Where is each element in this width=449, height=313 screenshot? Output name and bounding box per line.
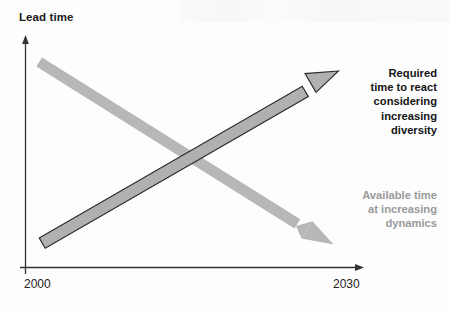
x-axis-tick-label-end: 2030 xyxy=(333,277,360,291)
required-time-arrowhead-icon xyxy=(305,71,339,92)
required-time-arrow-shaft xyxy=(39,86,308,248)
annotation-required-time: Required time to react considering incre… xyxy=(337,66,437,137)
available-time-arrow-shaft xyxy=(36,57,300,228)
lead-time-chart: Lead time 2000 2030 Required t xyxy=(0,0,449,313)
chart-plot-area xyxy=(0,0,449,313)
annotation-available-time: Available time at increasing dynamics xyxy=(333,188,437,231)
x-axis-tick-label-start: 2000 xyxy=(24,277,51,291)
y-axis-arrowhead-icon xyxy=(22,35,29,44)
x-axis-arrowhead-icon xyxy=(355,264,364,271)
